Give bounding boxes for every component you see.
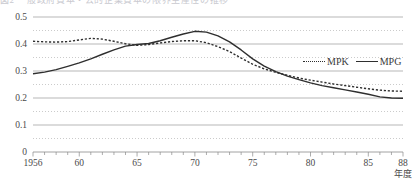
x-axis-tick-label: 85: [351, 158, 385, 168]
y-axis-tick-label: 0.3: [1, 66, 27, 76]
x-axis-tick-label: 88: [386, 158, 416, 168]
legend-label-mpg: MPG: [380, 56, 402, 67]
legend-label-mpk: MPK: [327, 56, 349, 67]
y-axis-tick-label: 0.2: [1, 93, 27, 103]
solid-line-swatch-icon: [356, 58, 378, 66]
x-axis-tick-label: 1956: [16, 158, 50, 168]
chart-legend: MPK MPG: [303, 56, 401, 67]
x-axis-tick-label: 60: [62, 158, 96, 168]
dotted-line-swatch-icon: [303, 58, 325, 66]
x-axis-tick-label: 70: [178, 158, 212, 168]
legend-entry-mpk: MPK: [303, 56, 349, 67]
major-gridlines: [33, 17, 403, 125]
x-axis-tick-label: 80: [294, 158, 328, 168]
y-axis-tick-label: 0.4: [1, 39, 27, 49]
y-axis-tick-label: 0.1: [1, 120, 27, 130]
legend-entry-mpg: MPG: [356, 56, 402, 67]
minor-gridlines: [33, 31, 403, 139]
y-axis-tick-label: 0: [1, 147, 27, 157]
y-axis-tick-label: 0.5: [1, 12, 27, 22]
x-axis-tick-label: 75: [236, 158, 270, 168]
x-axis-ticks: [33, 152, 403, 157]
x-axis-unit-label: 年度: [386, 169, 416, 179]
figure-container: 図2 一般政府資本・公的企業資本の限界生産性の推移 0.50.40.30.20.…: [0, 0, 416, 181]
line-chart-plot: [0, 0, 416, 181]
x-axis-tick-label: 65: [120, 158, 154, 168]
